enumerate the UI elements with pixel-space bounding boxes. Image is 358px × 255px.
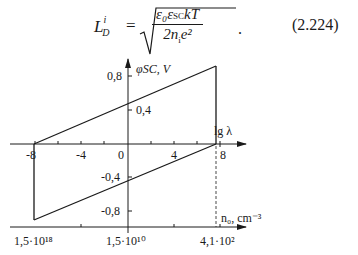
chart: -8 -4 0 4 8 0,8 0,4 -0,4 -0,8 φSC, V lg … <box>0 0 358 255</box>
n0-tick-label: 4,1·10² <box>200 234 235 248</box>
n0-tick-label: 1,5·10¹⁰ <box>106 234 146 248</box>
x-tick-label: 0 <box>118 148 124 162</box>
x-axis-label: lg λ <box>214 124 232 138</box>
n0-axis-label: n₀, cm⁻³ <box>221 211 262 225</box>
y-tick-label: 0,4 <box>136 103 151 117</box>
y-tick-label: 0,8 <box>107 69 122 83</box>
n0-tick-label: 1,5·10¹⁸ <box>14 234 53 248</box>
y-tick-label: -0,4 <box>101 170 120 184</box>
x-tick-label: -4 <box>76 148 86 162</box>
x-tick-label: -8 <box>26 148 36 162</box>
y-axis-label: φSC, V <box>136 62 172 76</box>
hysteresis-curve <box>34 66 216 220</box>
y-tick-label: -0,8 <box>101 204 120 218</box>
x-tick-label: 4 <box>171 148 177 162</box>
x-tick-label: 8 <box>220 148 226 162</box>
